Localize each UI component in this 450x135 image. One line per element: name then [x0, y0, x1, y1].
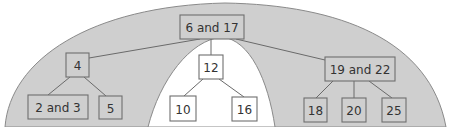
node-label: 18: [308, 104, 323, 118]
tree-diagram: 6 and 1742 and 3512101619 and 22182025: [0, 0, 450, 135]
node-label: 12: [203, 61, 218, 75]
node-label: 25: [386, 104, 401, 118]
tree-node-n2and3: 2 and 3: [28, 95, 88, 119]
tree-node-n20: 20: [342, 98, 366, 122]
tree-node-n5: 5: [99, 96, 122, 119]
tree-node-n25: 25: [382, 98, 406, 122]
node-label: 20: [346, 104, 361, 118]
tree-node-n19and22: 19 and 22: [325, 57, 395, 81]
node-label: 5: [107, 102, 115, 116]
node-label: 2 and 3: [35, 101, 80, 115]
node-label: 4: [74, 59, 82, 73]
tree-node-n4: 4: [66, 53, 89, 77]
node-label: 16: [237, 103, 252, 117]
tree-node-n16: 16: [232, 97, 257, 121]
tree-node-root: 6 and 17: [180, 15, 244, 39]
tree-node-n10: 10: [170, 96, 196, 121]
node-label: 10: [175, 103, 190, 117]
tree-node-n18: 18: [304, 98, 327, 122]
node-label: 6 and 17: [185, 21, 238, 35]
tree-node-n12: 12: [199, 55, 223, 79]
node-label: 19 and 22: [330, 63, 391, 77]
